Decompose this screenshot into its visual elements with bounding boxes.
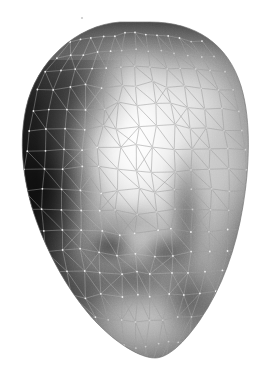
mesh-edge	[105, 367, 113, 370]
mesh-edge	[158, 366, 166, 367]
mesh-vertex	[205, 127, 207, 129]
mesh-vertex	[81, 338, 83, 340]
mesh-vertex	[190, 188, 192, 190]
mesh-vertex	[247, 229, 249, 231]
mesh-vertex	[223, 130, 225, 132]
mesh-edge	[210, 251, 228, 252]
mesh-edge	[24, 191, 25, 210]
mesh-vertex	[245, 149, 247, 151]
mesh-vertex	[66, 109, 68, 111]
mesh-vertex	[221, 107, 223, 109]
mesh-vertex	[171, 272, 173, 274]
mesh-vertex	[47, 271, 49, 273]
mesh-vertex	[152, 146, 154, 148]
mesh-vertex	[66, 270, 68, 272]
mesh-vertex	[209, 251, 211, 253]
mesh-vertex	[229, 190, 231, 192]
mesh-vertex	[150, 172, 152, 174]
mesh-vertex	[139, 187, 141, 189]
mesh-vertex	[187, 272, 189, 274]
mesh-vertex	[85, 84, 87, 86]
mesh-vertex	[136, 105, 138, 107]
mesh-vertex	[154, 256, 156, 258]
mesh-vertex	[200, 87, 202, 89]
mesh-edge	[151, 172, 175, 173]
mesh-edge	[31, 270, 54, 292]
mesh-edge	[31, 270, 38, 291]
mesh-edge	[54, 313, 82, 339]
mesh-edge	[46, 252, 49, 273]
mesh-vertex	[81, 316, 83, 318]
mesh-vertex	[174, 171, 176, 173]
mesh-edge	[92, 341, 102, 342]
mesh-vertex	[149, 320, 151, 322]
mesh-edge	[103, 342, 114, 343]
mesh-vertex	[224, 71, 226, 73]
mesh-vertex	[135, 253, 137, 255]
mesh-vertex	[244, 248, 246, 250]
mesh-vertex	[80, 38, 82, 40]
mesh-edge	[120, 372, 129, 373]
mesh-vertex	[124, 32, 126, 34]
mesh-vertex	[135, 48, 137, 50]
mesh-vertex	[37, 89, 39, 91]
mesh-vertex	[26, 150, 28, 152]
mesh-vertex	[218, 89, 220, 91]
face-mesh-render	[0, 0, 274, 377]
mesh-vertex	[90, 37, 92, 39]
mesh-vertex	[80, 229, 82, 231]
mesh-vertex	[43, 230, 45, 232]
mesh-vertex	[173, 365, 175, 367]
mesh-vertex	[201, 40, 203, 42]
mesh-vertex	[67, 316, 69, 318]
mesh-edge	[103, 342, 120, 372]
mesh-vertex	[227, 148, 229, 150]
mesh-vertex	[204, 271, 206, 273]
render-canvas	[0, 0, 274, 377]
mesh-edge	[92, 68, 106, 69]
mesh-vertex	[156, 34, 158, 36]
mesh-vertex	[168, 341, 170, 343]
mesh-vertex	[115, 128, 117, 130]
mesh-vertex	[157, 229, 159, 231]
mesh-vertex	[184, 85, 186, 87]
mesh-edge	[54, 313, 71, 339]
mesh-vertex	[112, 342, 114, 344]
mesh-vertex	[231, 290, 233, 292]
mesh-vertex	[213, 56, 215, 58]
mesh-edge	[156, 103, 157, 125]
mesh-vertex	[80, 210, 82, 212]
mesh-edge	[240, 249, 245, 271]
mesh-edge	[248, 191, 249, 210]
mesh-edge	[82, 339, 98, 365]
mesh-vertex	[174, 124, 176, 126]
mesh-vertex	[104, 108, 106, 110]
mesh-vertex	[100, 293, 102, 295]
mesh-vertex	[177, 316, 179, 318]
mesh-vertex	[99, 272, 101, 274]
mesh-vertex	[52, 89, 54, 91]
mesh-vertex	[112, 369, 114, 371]
mesh-vertex	[152, 80, 154, 82]
mesh-vertex	[208, 231, 210, 233]
mesh-vertex	[63, 148, 65, 150]
mesh-vertex	[156, 211, 158, 213]
mesh-vertex	[85, 109, 87, 111]
mesh-vertex	[134, 32, 136, 34]
mesh-vertex	[187, 55, 189, 57]
mesh-vertex	[135, 85, 137, 87]
mesh-vertex	[200, 337, 202, 339]
mesh-vertex	[70, 54, 72, 56]
mesh-vertex	[102, 341, 104, 343]
mesh-vertex	[205, 314, 207, 316]
mesh-vertex	[228, 168, 230, 170]
mesh-edge	[98, 365, 105, 367]
mesh-vertex	[118, 101, 120, 103]
mesh-vertex	[81, 149, 83, 151]
mesh-vertex	[44, 168, 46, 170]
mesh-vertex	[248, 190, 250, 192]
mesh-vertex	[101, 87, 103, 89]
mesh-vertex	[85, 297, 87, 299]
mesh-vertex	[84, 270, 86, 272]
mesh-vertex	[232, 89, 234, 91]
